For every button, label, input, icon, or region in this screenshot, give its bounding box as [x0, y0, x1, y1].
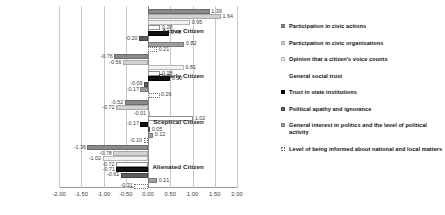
- legend-label: Participation in civic organisations: [289, 40, 383, 47]
- bar: [144, 138, 148, 143]
- bar: [134, 184, 148, 189]
- legend-swatch-icon: [281, 123, 285, 127]
- bar-value-label: -0.61: [105, 172, 119, 177]
- legend-item[interactable]: Level of being informed about national a…: [281, 146, 445, 153]
- bar: [148, 111, 150, 116]
- bar-value-label: -0.72: [100, 105, 114, 110]
- bar: [148, 47, 157, 52]
- bar-value-label: 0.95: [192, 20, 203, 25]
- bar: [148, 93, 160, 98]
- category-label: Orderly Citizen: [124, 72, 204, 79]
- gridline: [215, 6, 216, 188]
- legend-swatch-icon: [281, 107, 285, 111]
- bar: [113, 151, 148, 156]
- bar-value-label: -0.17: [125, 87, 139, 92]
- bar-chart: 1.391.640.950.280.48-0.200.820.21-0.76-0…: [0, 0, 445, 215]
- x-tick-label: -1.00: [97, 191, 110, 197]
- category-label: Alienated Citizen: [124, 163, 204, 170]
- x-tick-label: -2.00: [52, 191, 65, 197]
- bar-value-label: 0.81: [186, 65, 197, 70]
- bar: [148, 133, 153, 138]
- legend-label: General social trust: [289, 73, 342, 80]
- gridline: [237, 6, 238, 188]
- bar-value-label: -1.02: [87, 156, 101, 161]
- bar: [144, 82, 148, 87]
- bar-value-label: 0.26: [161, 92, 172, 97]
- legend-swatch-icon: [281, 90, 285, 94]
- bar: [125, 100, 148, 105]
- bar: [121, 173, 148, 178]
- legend-item[interactable]: General interest in politics and the lev…: [281, 122, 445, 136]
- bar-value-label: -0.01: [132, 111, 146, 116]
- bar: [148, 9, 210, 14]
- bar: [123, 60, 148, 65]
- legend-label: Trust in state institutions: [289, 89, 357, 96]
- bar-value-label: -0.31: [119, 183, 133, 188]
- gridline: [59, 6, 60, 188]
- bar-value-label: 0.21: [159, 178, 170, 183]
- category-label: Sceptical Citizen: [124, 118, 204, 125]
- bar: [148, 178, 157, 183]
- x-tick-label: 2.00: [231, 191, 242, 197]
- legend-item[interactable]: Political apathy and ignorance: [281, 106, 445, 113]
- legend-label: Opinion that a citizen's voice counts: [289, 56, 388, 63]
- chart-legend: Participation in civic actionsParticipat…: [281, 23, 445, 162]
- legend-item[interactable]: General social trust: [281, 73, 445, 80]
- legend-label: Political apathy and ignorance: [289, 106, 371, 113]
- bar-value-label: 0.21: [159, 47, 170, 52]
- legend-label: Level of being informed about national a…: [289, 146, 442, 153]
- category-label: Active Citizen: [124, 27, 204, 34]
- bar-value-label: -0.56: [108, 60, 122, 65]
- gridline: [81, 6, 82, 188]
- x-tick-label: 1.50: [209, 191, 220, 197]
- legend-swatch-icon: [281, 41, 285, 45]
- bar: [140, 87, 148, 92]
- bar-value-label: 0.82: [186, 41, 197, 46]
- legend-item[interactable]: Participation in civic actions: [281, 23, 445, 30]
- x-tick-label: -1.50: [75, 191, 88, 197]
- legend-swatch-icon: [281, 147, 285, 151]
- x-tick-label: 0.50: [165, 191, 176, 197]
- bar: [148, 14, 221, 19]
- bar: [148, 127, 150, 132]
- legend-item[interactable]: Opinion that a citizen's voice counts: [281, 56, 445, 63]
- legend-swatch-icon: [281, 24, 285, 28]
- bar-value-label: -0.10: [128, 138, 142, 143]
- bar-value-label: -1.36: [72, 145, 86, 150]
- bar-value-label: -0.20: [124, 36, 138, 41]
- legend-label: General interest in politics and the lev…: [289, 122, 445, 136]
- bar-value-label: 1.64: [222, 14, 233, 19]
- legend-label: Participation in civic actions: [289, 23, 366, 30]
- x-tick-label: 0.00: [142, 191, 153, 197]
- bar-value-label: 1.39: [211, 9, 222, 14]
- x-tick-label: -0.50: [119, 191, 132, 197]
- x-tick-label: 1.00: [187, 191, 198, 197]
- bar-value-label: 0.12: [155, 132, 166, 137]
- bar: [139, 36, 148, 41]
- legend-item[interactable]: Trust in state institutions: [281, 89, 445, 96]
- legend-swatch-icon: [281, 57, 285, 61]
- legend-item[interactable]: Participation in civic organisations: [281, 40, 445, 47]
- bar: [87, 145, 148, 150]
